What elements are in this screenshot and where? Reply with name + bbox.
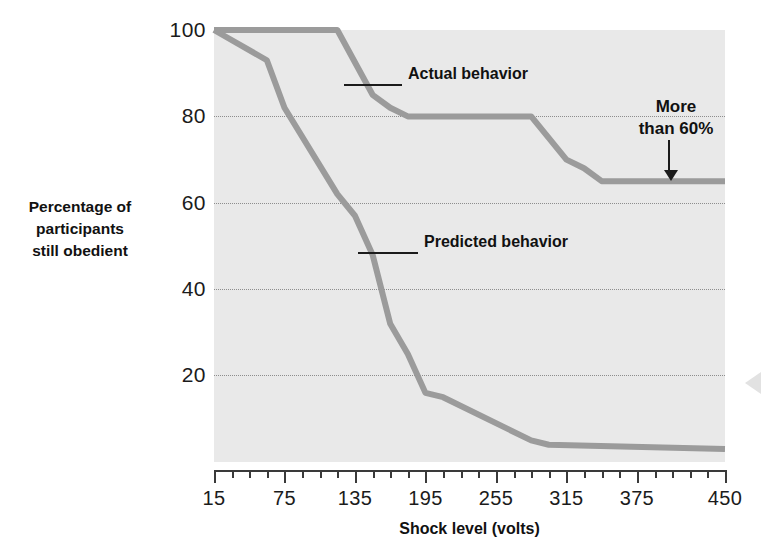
x-tick-195 bbox=[425, 470, 427, 483]
y-tick-label-20: 20 bbox=[182, 363, 206, 387]
actual-behavior-leader-line bbox=[344, 84, 402, 86]
y-tick-label-60: 60 bbox=[182, 191, 206, 215]
x-tick-30 bbox=[232, 470, 234, 478]
x-tick-210 bbox=[443, 470, 445, 478]
x-tick-255 bbox=[496, 470, 498, 483]
x-tick-label-75: 75 bbox=[273, 487, 296, 510]
x-tick-435 bbox=[707, 470, 709, 478]
y-axis-title-line-1: Percentage of bbox=[14, 196, 146, 218]
x-tick-300 bbox=[549, 470, 551, 478]
x-tick-105 bbox=[320, 470, 322, 478]
more-than-60-callout: More than 60% bbox=[617, 96, 735, 140]
x-tick-360 bbox=[619, 470, 621, 478]
predicted-behavior-leader-line bbox=[358, 252, 418, 254]
y-axis-title-line-3: still obedient bbox=[14, 240, 146, 262]
x-tick-315 bbox=[566, 470, 568, 483]
x-tick-label-450: 450 bbox=[708, 487, 742, 510]
obedience-line-chart: Percentage of participants still obedien… bbox=[0, 0, 761, 556]
x-tick-135 bbox=[355, 470, 357, 483]
actual-behavior-label: Actual behavior bbox=[408, 65, 528, 83]
x-axis-line bbox=[214, 470, 725, 472]
x-tick-330 bbox=[584, 470, 586, 478]
x-axis-title: Shock level (volts) bbox=[214, 520, 725, 538]
x-tick-60 bbox=[267, 470, 269, 478]
y-axis-title: Percentage of participants still obedien… bbox=[14, 196, 146, 262]
x-tick-label-315: 315 bbox=[549, 487, 583, 510]
x-tick-405 bbox=[672, 470, 674, 478]
x-tick-420 bbox=[690, 470, 692, 478]
x-tick-270 bbox=[514, 470, 516, 478]
x-tick-75 bbox=[284, 470, 286, 483]
x-tick-450 bbox=[725, 470, 727, 483]
x-tick-15 bbox=[214, 470, 216, 483]
x-tick-120 bbox=[337, 470, 339, 478]
predicted-behavior-label: Predicted behavior bbox=[424, 233, 568, 251]
y-tick-label-80: 80 bbox=[182, 104, 206, 128]
x-tick-90 bbox=[302, 470, 304, 478]
y-axis-tick-labels: 100 80 60 40 20 bbox=[150, 0, 206, 462]
x-tick-240 bbox=[478, 470, 480, 478]
x-tick-180 bbox=[408, 470, 410, 478]
x-tick-label-375: 375 bbox=[620, 487, 654, 510]
callout-line-2: than 60% bbox=[617, 118, 735, 140]
x-tick-390 bbox=[655, 470, 657, 478]
x-tick-45 bbox=[249, 470, 251, 478]
x-tick-label-255: 255 bbox=[479, 487, 513, 510]
down-arrow-icon bbox=[668, 140, 670, 174]
y-tick-label-40: 40 bbox=[182, 277, 206, 301]
x-tick-150 bbox=[373, 470, 375, 478]
x-tick-225 bbox=[461, 470, 463, 478]
page-edge-artifact bbox=[745, 372, 761, 394]
x-tick-345 bbox=[602, 470, 604, 478]
x-tick-285 bbox=[531, 470, 533, 478]
y-axis-title-line-2: participants bbox=[14, 218, 146, 240]
x-tick-label-195: 195 bbox=[408, 487, 442, 510]
x-tick-375 bbox=[637, 470, 639, 483]
x-tick-label-135: 135 bbox=[338, 487, 372, 510]
x-tick-label-15: 15 bbox=[203, 487, 226, 510]
y-tick-label-100: 100 bbox=[169, 18, 206, 42]
callout-line-1: More bbox=[617, 96, 735, 118]
x-tick-165 bbox=[390, 470, 392, 478]
